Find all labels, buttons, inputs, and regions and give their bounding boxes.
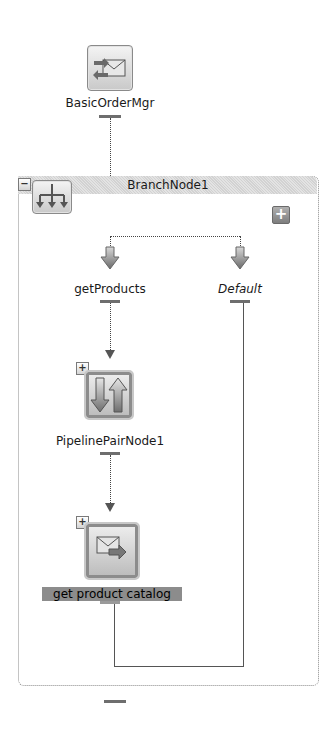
pipeline-node-label[interactable]: PipelinePairNode1 <box>40 434 180 448</box>
branch-arrow-getproducts-icon <box>100 246 120 270</box>
branch-label-default[interactable]: Default <box>200 282 280 296</box>
proxy-service-envelope-icon <box>88 46 132 90</box>
proxy-node-icon-box[interactable] <box>87 45 133 91</box>
arrowhead-icon <box>105 350 115 359</box>
route-envelope-icon <box>89 527 135 575</box>
merge-connector <box>114 666 244 667</box>
default-merge-line <box>243 303 244 666</box>
branch-split-connector <box>110 236 240 237</box>
add-branch-button[interactable]: + <box>272 206 290 224</box>
pipeline-to-route-connector <box>110 455 111 503</box>
plus-icon: + <box>275 205 288 223</box>
pipeline-pair-arrows-icon <box>89 375 129 415</box>
arrowhead-icon <box>105 503 115 512</box>
getproducts-to-pipeline-connector <box>110 303 111 350</box>
branch-arrow-default-icon <box>230 246 250 270</box>
route-output-port <box>100 601 120 604</box>
pipeline-node-icon-box[interactable] <box>86 372 132 418</box>
proxy-node-label[interactable]: BasicOrderMgr <box>60 96 160 110</box>
proxy-to-branch-connector <box>110 118 111 176</box>
route-node-label[interactable]: get product catalog <box>42 587 182 601</box>
branch-node-frame[interactable] <box>18 176 319 686</box>
branch-output-port <box>104 700 126 703</box>
route-node-icon-box[interactable] <box>86 524 138 578</box>
route-merge-line <box>114 604 115 666</box>
branch-node-icon-box[interactable] <box>32 180 72 214</box>
branch-node-label: BranchNode1 <box>108 178 228 192</box>
default-output-port <box>230 300 250 303</box>
branch-label-getproducts[interactable]: getProducts <box>55 282 165 296</box>
branch-collapse-toggle[interactable]: − <box>18 178 31 191</box>
branch-tree-icon <box>33 181 71 213</box>
